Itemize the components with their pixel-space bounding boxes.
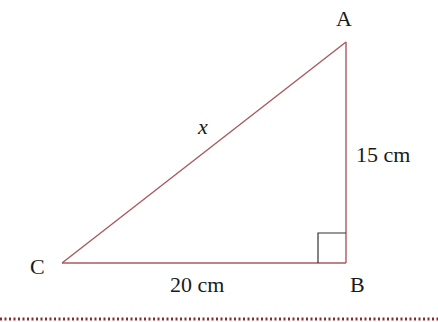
right-triangle-diagram: A B C x 15 cm 20 cm — [0, 0, 438, 322]
side-label-hypotenuse: x — [197, 114, 208, 139]
side-label-horizontal: 20 cm — [170, 272, 224, 297]
vertex-label-b: B — [350, 272, 365, 297]
vertex-label-a: A — [336, 6, 352, 31]
right-angle-marker — [318, 233, 346, 263]
vertex-label-c: C — [30, 254, 45, 279]
side-label-vertical: 15 cm — [356, 142, 410, 167]
side-ca-hypotenuse — [62, 42, 346, 263]
